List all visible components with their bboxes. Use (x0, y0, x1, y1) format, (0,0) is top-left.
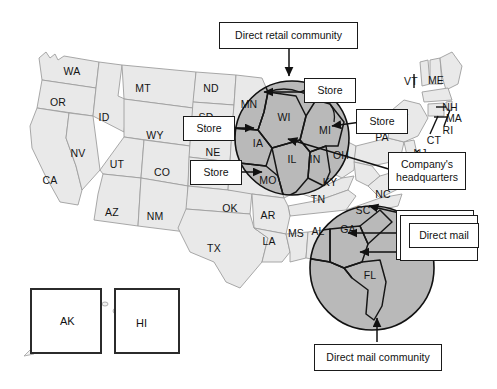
state-label-wa: WA (64, 65, 81, 77)
state-label-tx: TX (207, 242, 221, 254)
hawaii-inset-label: HI (136, 317, 147, 329)
state-label-wi: WI (277, 111, 290, 123)
state-label-ar: AR (261, 209, 276, 221)
callout-store-left[interactable]: Store (183, 116, 235, 141)
state-label-me: ME (428, 74, 444, 86)
state-label-nm: NM (147, 210, 164, 222)
state-label-ms: MS (288, 227, 304, 239)
state-label-mt: MT (135, 82, 151, 94)
callout-direct-retail-community[interactable]: Direct retail community (219, 22, 358, 49)
state-label-ct: CT (427, 134, 441, 146)
state-label-ky: KY (323, 176, 337, 188)
callout-company-headquarters[interactable]: Company's headquarters (388, 152, 466, 190)
state-label-ne: NE (206, 146, 221, 158)
state-label-in: IN (310, 153, 321, 165)
state-label-ga: GA (340, 223, 356, 235)
alaska-inset-label: AK (60, 315, 75, 327)
state-label-ia: IA (253, 137, 263, 149)
state-label-ca: CA (43, 174, 58, 186)
state-label-il: IL (287, 153, 296, 165)
state-label-vt: VT (404, 75, 418, 87)
hawaii-inset-box (114, 288, 180, 354)
state-label-mn: MN (241, 98, 258, 110)
callout-store-right[interactable]: Store (356, 109, 408, 134)
state-label-mi: MI (319, 124, 331, 136)
state-label-az: AZ (105, 206, 119, 218)
state-label-ri: RI (443, 124, 454, 136)
state-ma (422, 88, 452, 102)
state-label-or: OR (50, 96, 66, 108)
state-label-ok: OK (222, 202, 238, 214)
state-label-sc: SC (356, 204, 371, 216)
callout-store-lower[interactable]: Store (190, 160, 242, 185)
state-label-al: AL (311, 225, 324, 237)
state-label-id: ID (99, 111, 110, 123)
leader-ct (430, 116, 438, 134)
state-label-nd: ND (203, 82, 219, 94)
state-label-la: LA (262, 235, 275, 247)
state-label-wy: WY (146, 129, 163, 141)
state-label-co: CO (154, 166, 170, 178)
state-label-nv: NV (71, 147, 86, 159)
callout-direct-mail-community[interactable]: Direct mail community (314, 344, 442, 371)
state-label-mo: MO (259, 174, 276, 186)
callout-direct-mail[interactable]: Direct mail (409, 223, 479, 248)
state-label-oh: OH (333, 149, 349, 161)
callout-store-upper[interactable]: Store (304, 78, 356, 103)
state-label-tn: TN (311, 193, 325, 205)
map-figure: WAORIDMTNDSDWYNVUTCOCANEAZNMTXOKARLAMSMN… (0, 0, 497, 389)
state-label-fl: FL (364, 269, 377, 281)
state-label-ut: UT (110, 158, 124, 170)
state-az (94, 174, 141, 226)
state-label-ma: MA (446, 112, 462, 124)
